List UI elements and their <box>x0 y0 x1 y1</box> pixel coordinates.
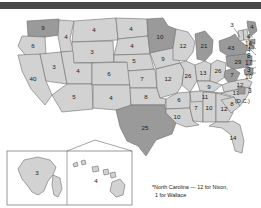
state-CO[interactable] <box>92 62 130 85</box>
state-label-ND: 4 <box>129 25 133 32</box>
dc-swatch <box>238 87 245 94</box>
state-label-MI: 21 <box>201 42 208 49</box>
hawaii-island-5[interactable] <box>110 172 116 178</box>
state-label-IA: 9 <box>161 55 165 62</box>
top-divider-bar <box>0 2 261 9</box>
state-label-VT: 3 <box>230 21 234 28</box>
state-label-WA: 9 <box>41 24 45 31</box>
hawaii-island-4[interactable] <box>103 169 109 175</box>
state-label-CO: 6 <box>107 70 111 77</box>
state-label-OH: 26 <box>215 67 222 74</box>
state-label-CA: 40 <box>30 75 37 82</box>
state-label-SD: 4 <box>130 42 134 49</box>
state-HI[interactable] <box>110 179 125 197</box>
state-label-IN: 13 <box>200 69 207 76</box>
state-label-SC: 8 <box>230 100 234 107</box>
state-label-HI: 4 <box>94 177 98 184</box>
leader-label-CT: 8 <box>247 52 251 59</box>
hawaii-island-1[interactable] <box>73 162 78 167</box>
state-label-KS: 7 <box>140 75 144 82</box>
state-label-AZ: 5 <box>72 93 76 100</box>
state-label-NE: 5 <box>132 57 136 64</box>
hawaii-island-2[interactable] <box>81 160 86 165</box>
state-label-PA: 29 <box>235 58 242 65</box>
state-label-MN: 10 <box>157 33 164 40</box>
dc-votes-label: 3 <box>248 87 252 94</box>
inset-pointer-upper <box>67 140 95 151</box>
state-label-WY: 3 <box>90 48 94 55</box>
state-label-MO: 12 <box>165 75 172 82</box>
state-label-TX: 25 <box>142 124 149 131</box>
state-label-VA: 12 <box>237 81 244 88</box>
state-label-UT: 4 <box>76 67 80 74</box>
state-label-ME: 4 <box>250 23 254 30</box>
state-label-ID: 4 <box>64 33 68 40</box>
state-label-KY: 9 <box>207 83 211 90</box>
state-label-NV: 3 <box>52 63 56 70</box>
state-label-MT: 4 <box>92 26 96 33</box>
leader-line-CT <box>250 49 256 55</box>
state-label-FL: 14 <box>230 134 237 141</box>
state-label-GA: 12 <box>221 105 228 112</box>
dc-caption: (D.C.) <box>235 98 250 104</box>
state-label-AL: 10 <box>206 104 213 111</box>
state-label-OK: 8 <box>144 93 148 100</box>
us-electoral-map-svg: 9 6 40 3 4 4 3 4 5 6 4 4 4 5 7 8 25 10 9… <box>0 9 261 208</box>
state-label-OR: 6 <box>31 42 35 49</box>
state-label-WV: 7 <box>230 71 234 78</box>
leader-label-NJ: 17 <box>245 59 253 66</box>
footnote-text: *North Carolina — 12 for Nixon,1 for Wal… <box>152 184 228 198</box>
leader-label-MD: 10 <box>245 73 253 80</box>
hawaii-island-3[interactable] <box>92 166 99 172</box>
state-label-WI: 12 <box>180 42 187 49</box>
inset-pointer-lower <box>95 140 132 151</box>
electoral-map-figure: 9 6 40 3 4 4 3 4 5 6 4 4 4 5 7 8 25 10 9… <box>0 0 261 208</box>
state-label-NY: 43 <box>228 44 235 51</box>
state-label-AR: 6 <box>177 96 181 103</box>
map-canvas: 9 6 40 3 4 4 3 4 5 6 4 4 4 5 7 8 25 10 9… <box>0 9 261 208</box>
state-label-NM: 4 <box>109 94 113 101</box>
leader-label-DE: 3 <box>247 66 251 73</box>
state-label-AK: 3 <box>35 169 39 176</box>
leader-label-NH: 4 <box>247 33 251 40</box>
state-label-LA: 10 <box>174 113 181 120</box>
state-FL[interactable] <box>209 121 244 153</box>
state-AK[interactable] <box>18 157 56 195</box>
state-label-MS: 7 <box>194 104 198 111</box>
state-label-TN: 11 <box>202 93 209 100</box>
state-AK-panhandle[interactable] <box>52 175 62 197</box>
state-label-IL: 26 <box>185 72 192 79</box>
